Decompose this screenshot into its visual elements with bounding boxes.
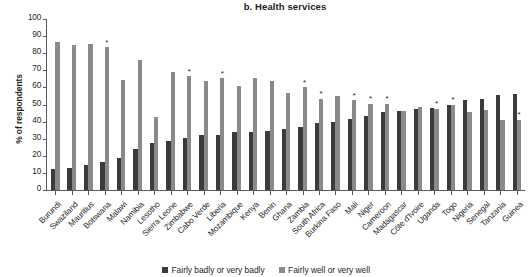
bar-well [467,112,471,190]
significance-asterisk: * [353,94,356,98]
bar-well [319,99,323,190]
bar-well [220,78,224,190]
bar-group [47,19,63,190]
significance-asterisk: * [386,97,389,101]
bar-group: * [360,19,376,190]
x-label-cell: Mali [344,191,360,251]
bar-group [113,19,129,190]
legend-label: Fairly badly or very badly [172,265,265,275]
x-tick-mark [253,191,254,195]
bar-well [171,72,175,190]
health-services-bar-chart: b. Health services % of respondents 1009… [0,0,532,277]
y-tick-label: 10 [32,167,41,176]
bar-group [476,19,492,190]
plot-area: 1009080706050403020100 *********** [47,19,525,190]
chart-legend: Fairly badly or very badlyFairly well or… [0,265,532,275]
x-tick-mark [484,191,485,195]
y-tick-label: 50 [32,99,41,108]
x-tick-mark [517,191,518,195]
x-tick-mark [154,191,155,195]
bar-group [393,19,409,190]
bar-well [187,76,191,190]
y-tick-label: 70 [32,64,41,73]
bar-well [154,117,158,190]
bar-group: * [96,19,112,190]
x-label-cell: Burkina Faso [327,191,343,251]
bar-group: * [179,19,195,190]
x-label-cell: Mozambique [228,191,244,251]
y-tick-label: 60 [32,81,41,90]
bar-group [195,19,211,190]
y-tick-label: 100 [28,13,41,22]
bar-group: * [443,19,459,190]
bar-group: * [426,19,442,190]
significance-asterisk: * [320,92,323,96]
bar-group [80,19,96,190]
y-axis-label: % of respondents [14,49,24,169]
bar-group [63,19,79,190]
bar-group [162,19,178,190]
bar-group [492,19,508,190]
bar-well [385,104,389,190]
significance-asterisk: * [517,113,520,117]
significance-asterisk: * [105,41,108,45]
x-axis-labels: BurundiSwazilandMauritiusBotswanaMalawiN… [47,191,525,251]
x-tick-mark [352,191,353,195]
x-tick-mark [335,191,336,195]
bar-series-container: *********** [47,19,525,190]
significance-asterisk: * [451,98,454,102]
significance-asterisk: * [188,70,191,74]
significance-asterisk: * [435,102,438,106]
bar-group: * [377,19,393,190]
x-tick-mark [72,191,73,195]
x-tick-mark [385,191,386,195]
bar-well [286,93,290,190]
bar-well [401,111,405,191]
significance-asterisk: * [303,81,306,85]
bar-well [105,47,109,190]
x-tick-mark [434,191,435,195]
bar-group [459,19,475,190]
bar-well [88,44,92,190]
x-tick-mark [237,191,238,195]
legend-swatch [279,267,285,273]
bar-well [484,110,488,190]
bar-well [121,80,125,190]
bar-well [138,60,142,190]
x-tick-mark [171,191,172,195]
x-tick-mark [204,191,205,195]
x-tick-mark [105,191,106,195]
bar-group: * [344,19,360,190]
y-tick-label: 80 [32,47,41,56]
x-tick-mark [270,191,271,195]
bar-group: * [212,19,228,190]
bar-well [418,107,422,190]
bar-group [245,19,261,190]
x-tick-mark [286,191,287,195]
significance-asterisk: * [369,97,372,101]
y-tick-label: 30 [32,133,41,142]
y-tick-label: 20 [32,150,41,159]
y-tick-label: 90 [32,30,41,39]
bar-group [278,19,294,190]
bar-well [303,87,307,190]
x-label-cell: Kenya [245,191,261,251]
bar-group: * [311,19,327,190]
bar-well [72,45,76,190]
x-tick-mark [401,191,402,195]
legend-swatch [162,267,168,273]
x-label-cell: Guinea [509,191,525,251]
x-tick-mark [220,191,221,195]
legend-item: Fairly well or very well [279,265,370,275]
bar-group: * [509,19,525,190]
x-tick-mark [88,191,89,195]
y-tick-label: 0 [37,184,41,193]
x-tick-mark [319,191,320,195]
x-tick-mark [500,191,501,195]
bar-group: * [294,19,310,190]
chart-title: b. Health services [0,1,532,12]
bar-well [253,78,257,190]
x-tick-mark [187,191,188,195]
x-tick-mark [368,191,369,195]
x-tick-mark [418,191,419,195]
